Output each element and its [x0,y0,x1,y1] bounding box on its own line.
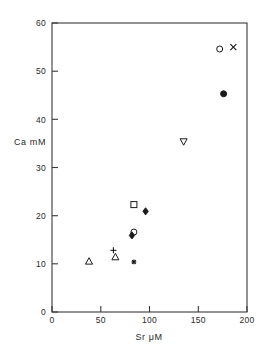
y-axis-tick-labels: 0 10 20 30 40 50 60 [36,18,46,317]
y-axis-ticks [52,23,58,312]
x-tick-label-0: 0 [49,315,54,325]
y-tick-label-10: 10 [36,259,46,269]
data-point-cross-high [230,44,236,50]
y-tick-label-20: 20 [36,211,46,221]
y-tick-label-30: 30 [36,163,46,173]
y-axis-title: Ca mM [14,137,46,147]
data-point-filled-circle-high [221,91,227,97]
x-axis-ticks [52,306,247,312]
x-tick-label-200: 200 [239,315,254,325]
plot-frame [52,23,247,312]
x-tick-label-100: 100 [142,315,157,325]
scatter-plot-figure: 0 10 20 30 40 50 60 0 50 100 150 200 Ca … [0,0,268,355]
y-tick-label-0: 0 [41,307,46,317]
y-tick-label-40: 40 [36,115,46,125]
data-point-open-square-mid [131,202,137,208]
data-point-plus-mid-left [110,247,116,253]
data-point-open-triangle-down [180,139,187,145]
x-tick-label-50: 50 [96,315,106,325]
y-tick-label-60: 60 [36,18,46,28]
data-point-filled-diamond-cluster [129,232,134,239]
plot-svg: 0 10 20 30 40 50 60 0 50 100 150 200 Ca … [0,0,268,355]
x-axis-tick-labels: 0 50 100 150 200 [49,315,254,325]
data-point-open-circle-high [217,46,223,52]
x-axis-title: Sr μM [135,332,162,342]
data-point-star-low [132,260,137,265]
data-point-filled-diamond-mid [143,208,148,215]
data-point-open-triangle-up-mid [112,253,119,259]
data-point-open-triangle-up-low [86,258,93,264]
y-tick-label-50: 50 [36,66,46,76]
data-markers-layer [86,44,237,264]
x-tick-label-150: 150 [191,315,206,325]
